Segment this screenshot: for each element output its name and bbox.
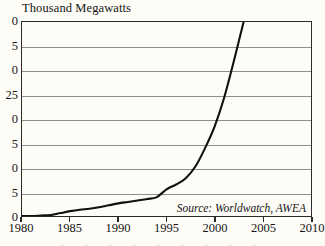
data-series-line: [22, 22, 311, 216]
y-axis-tick-label: 0: [12, 63, 18, 78]
y-axis-tick-label: 5: [12, 136, 18, 151]
x-axis-tick-label: 1985: [57, 221, 82, 236]
x-axis-tick-label: 1995: [154, 221, 179, 236]
y-axis-tick-label: 5: [12, 185, 18, 200]
plot-area: Source: Worldwatch, AWEA: [21, 21, 312, 217]
x-axis-tick-label: 1980: [9, 221, 34, 236]
y-axis-tick-label: 0: [12, 112, 18, 127]
y-axis-tick-label: 0: [12, 161, 18, 176]
x-axis-tick-label: 2010: [300, 221, 325, 236]
y-axis-tick-label: 0: [12, 14, 18, 29]
scan-artifact-row: . . . . . . . . .: [0, 235, 325, 246]
source-annotation: Source: Worldwatch, AWEA: [177, 202, 306, 214]
y-axis-tick-label: 5: [12, 38, 18, 53]
y-axis-tick-label: 25: [6, 87, 19, 102]
x-axis-tick-label: 2005: [251, 221, 276, 236]
chart-screenshot: Thousand Megawatts 0502505050 Source: Wo…: [0, 0, 325, 246]
x-axis-tick-label: 2000: [203, 221, 228, 236]
page-title: Thousand Megawatts: [22, 1, 131, 16]
y-axis: 0502505050: [0, 0, 21, 246]
x-axis-tick-label: 1990: [106, 221, 131, 236]
